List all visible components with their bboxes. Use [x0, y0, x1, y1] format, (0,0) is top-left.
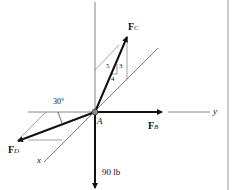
- force-fd-arrow: [18, 112, 95, 141]
- force-fb-sub: B: [154, 123, 158, 131]
- z-axis-label: z: [93, 0, 96, 2]
- point-a-marker: [92, 109, 98, 115]
- slope-vert-label: 3: [119, 63, 123, 70]
- force-fc-label: FC: [128, 22, 139, 32]
- diagram-graphics: [0, 0, 234, 190]
- force-diagram: z y x A FB FC FD 90 lb 5 3 4 30°: [0, 0, 234, 190]
- force-fd-sub: D: [14, 147, 19, 155]
- force-fc-sub: C: [134, 24, 139, 32]
- force-fb-label: FB: [148, 121, 158, 131]
- angle-label: 30°: [53, 98, 64, 106]
- weight-label: 90 lb: [102, 168, 120, 177]
- slope-hyp-label: 5: [106, 63, 110, 70]
- force-fd-label: FD: [8, 145, 19, 155]
- y-axis-label: y: [213, 107, 217, 116]
- slope-horiz-label: 4: [111, 76, 115, 83]
- angle-arc: [58, 112, 62, 123]
- x-axis-label: x: [37, 156, 41, 165]
- point-a-label: A: [97, 117, 103, 126]
